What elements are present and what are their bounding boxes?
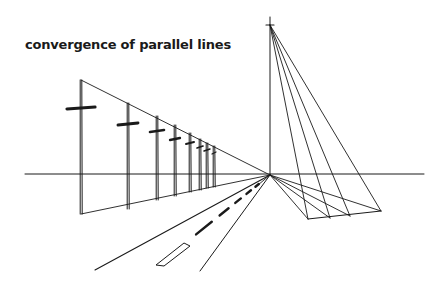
convergence-line-top: [270, 25, 350, 216]
pole-bottom-convergence-line: [81, 175, 270, 214]
ground-baseline: [308, 211, 381, 219]
convergence-line-vp: [270, 175, 381, 211]
convergence-line-top: [270, 25, 308, 219]
perspective-drawing: [0, 0, 445, 288]
pole-crossarm: [67, 107, 95, 109]
pole-crossarm: [170, 138, 180, 140]
pole-crossarm: [186, 142, 194, 144]
road-left-edge: [95, 175, 270, 270]
pole-crossarm: [197, 146, 203, 148]
convergence-line-vp: [270, 175, 330, 218]
road-marking: [156, 243, 190, 266]
pole-crossarm: [212, 152, 216, 154]
convergence-line-top: [270, 25, 330, 218]
road-centerline-dash: [220, 208, 229, 215]
pole-crossarm: [150, 130, 164, 132]
line-group: [25, 17, 424, 271]
road-centerline-dash: [196, 222, 212, 235]
road-centerline-dash: [246, 190, 250, 194]
road-centerline-dash: [235, 198, 241, 203]
pole-crossarm: [118, 123, 138, 125]
pole-crossarm: [204, 149, 210, 151]
convergence-line-vp: [270, 175, 350, 216]
